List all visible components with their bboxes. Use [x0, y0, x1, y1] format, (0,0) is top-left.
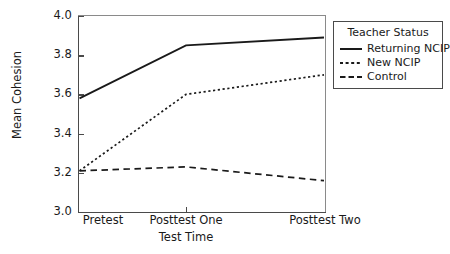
series-line-returning-ncip [80, 38, 325, 99]
legend-item-returning-ncip[interactable]: Returning NCIP [339, 42, 437, 55]
legend-key-solid-icon [339, 43, 363, 54]
legend-key-dashed-icon [339, 71, 363, 82]
legend-label-new-ncip: New NCIP [367, 57, 420, 68]
legend-item-control[interactable]: Control [339, 70, 437, 83]
legend-box: Teacher Status Returning NCIP New NCIP C… [333, 21, 443, 89]
legend-title: Teacher Status [339, 26, 437, 39]
series-line-control [80, 167, 325, 181]
legend-label-returning-ncip: Returning NCIP [367, 43, 450, 54]
legend-label-control: Control [367, 71, 407, 82]
legend-key-dotted-icon [339, 57, 363, 68]
series-line-new-ncip [80, 75, 325, 171]
legend-item-new-ncip[interactable]: New NCIP [339, 56, 437, 69]
